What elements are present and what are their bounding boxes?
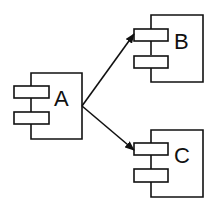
arrow-a-to-c[interactable] xyxy=(82,106,134,150)
component-a-port-bottom-icon xyxy=(14,112,49,124)
component-c-port-bottom-icon xyxy=(134,169,168,182)
component-a-port-top-icon xyxy=(14,86,49,98)
component-b-label: B xyxy=(174,29,189,54)
component-a-label: A xyxy=(54,86,69,111)
component-b-port-top-icon xyxy=(134,29,168,41)
component-b-port-bottom-icon xyxy=(134,56,168,68)
component-diagram: A B C xyxy=(0,0,212,212)
component-c-label: C xyxy=(174,143,190,168)
component-c[interactable]: C xyxy=(134,130,203,197)
component-a[interactable]: A xyxy=(14,73,82,139)
arrow-a-to-b[interactable] xyxy=(82,34,134,106)
component-c-port-top-icon xyxy=(134,143,168,155)
component-b[interactable]: B xyxy=(134,15,203,82)
